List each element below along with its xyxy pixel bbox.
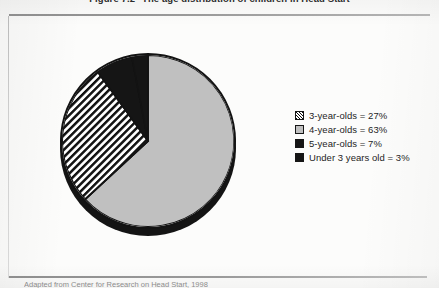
legend-label: 4-year-olds = 63% xyxy=(309,124,387,135)
figure-page: Figure 7.2The age distribution of childr… xyxy=(0,0,439,288)
figure-title: Figure 7.2The age distribution of childr… xyxy=(0,0,439,4)
legend-label: 3-year-olds = 27% xyxy=(309,110,387,121)
pie-slices xyxy=(62,55,234,227)
legend: 3-year-olds = 27% 4-year-olds = 63% 5-ye… xyxy=(295,108,435,164)
left-vertical-rule xyxy=(8,16,9,278)
figure-source-caption: Adapted from Center for Research on Head… xyxy=(24,280,208,288)
legend-item-5-year-olds: 5-year-olds = 7% xyxy=(295,136,435,150)
legend-item-under-3-years-old: Under 3 years old = 3% xyxy=(295,150,435,164)
bottom-divider-rule xyxy=(9,276,427,278)
legend-label: Under 3 years old = 3% xyxy=(309,152,410,163)
pie-face xyxy=(60,53,236,229)
legend-item-3-year-olds: 3-year-olds = 27% xyxy=(295,108,435,122)
legend-label: 5-year-olds = 7% xyxy=(309,138,382,149)
gray-swatch-icon xyxy=(295,125,304,134)
figure-number: Figure 7.2 xyxy=(89,0,135,4)
black-swatch-icon xyxy=(295,139,304,148)
black-swatch-icon xyxy=(295,153,304,162)
legend-item-4-year-olds: 4-year-olds = 63% xyxy=(295,122,435,136)
pie-chart xyxy=(58,48,238,240)
figure-title-text: The age distribution of children in Head… xyxy=(142,0,350,4)
hatch-swatch-icon xyxy=(295,111,304,120)
top-divider-rule xyxy=(9,14,430,16)
